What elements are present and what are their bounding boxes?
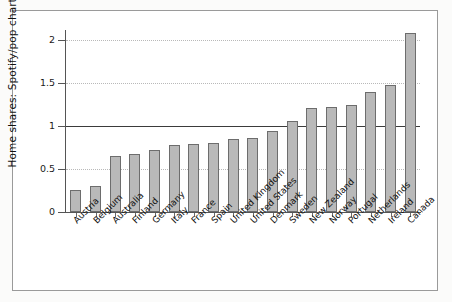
y-axis-line xyxy=(65,30,66,213)
y-tick-label: 0.5 xyxy=(30,164,55,174)
y-tick-label: 1 xyxy=(30,121,55,131)
y-tick-mark xyxy=(58,83,66,84)
y-tick-label: 2 xyxy=(30,35,55,45)
gridline xyxy=(66,83,420,84)
chart-figure: Home shares: Spotify/pop charts 00.511.5… xyxy=(0,0,452,302)
y-tick-mark xyxy=(58,126,66,127)
bar-united-kingdom xyxy=(228,139,239,212)
y-tick-mark xyxy=(58,169,66,170)
y-tick-mark xyxy=(58,40,66,41)
y-tick-label: 0 xyxy=(30,207,55,217)
y-tick-label: 1.5 xyxy=(30,78,55,88)
bar-france xyxy=(188,144,199,212)
y-tick-mark xyxy=(58,212,66,213)
gridline xyxy=(66,40,420,41)
y-axis-title: Home shares: Spotify/pop charts xyxy=(6,0,18,180)
